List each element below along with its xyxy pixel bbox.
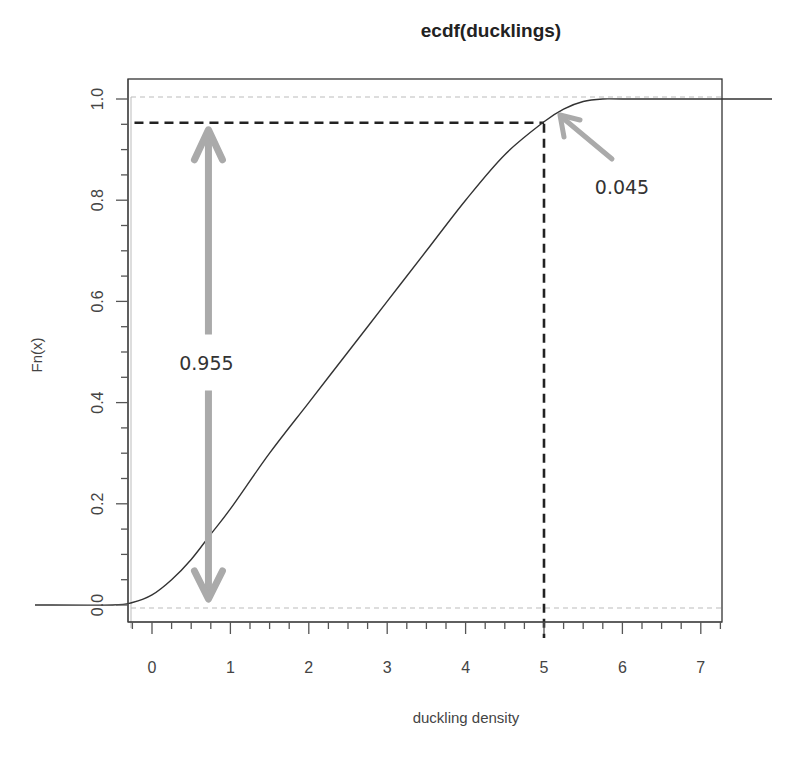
x-axis-label: duckling density	[413, 709, 520, 726]
x-tick-label: 0	[148, 659, 157, 676]
annotation-label-0045: 0.045	[595, 176, 649, 198]
annotations: 0.9550.045	[179, 115, 649, 599]
y-tick-label: 0.8	[89, 189, 106, 211]
x-tick-label: 6	[618, 659, 627, 676]
x-tick-label: 2	[304, 659, 313, 676]
y-tick-label: 0.2	[89, 493, 106, 515]
x-tick-label: 1	[226, 659, 235, 676]
x-axis: 01234567	[128, 622, 722, 676]
y-tick-label: 0.0	[89, 594, 106, 616]
x-tick-label: 7	[696, 659, 705, 676]
ecdf-curve	[35, 99, 772, 605]
x-tick-label: 4	[461, 659, 470, 676]
annotation-label-0955: 0.955	[179, 352, 233, 374]
y-tick-label: 0.6	[89, 290, 106, 312]
arrow-shaft	[564, 119, 612, 159]
x-tick-label: 3	[383, 659, 392, 676]
y-tick-label: 0.4	[89, 391, 106, 413]
plot-area: 0.9550.045 01234567 0.00.20.40.60.81.0 d…	[0, 0, 802, 758]
y-axis-label: Fn(x)	[28, 338, 45, 373]
x-tick-label: 5	[540, 659, 549, 676]
series-line-0	[35, 99, 772, 605]
ecdf-chart: ecdf(ducklings) 0.9550.045 01234567 0.00…	[0, 0, 802, 758]
y-axis: 0.00.20.40.60.81.0	[89, 79, 128, 622]
y-tick-label: 1.0	[89, 88, 106, 110]
plot-frame	[128, 79, 722, 622]
